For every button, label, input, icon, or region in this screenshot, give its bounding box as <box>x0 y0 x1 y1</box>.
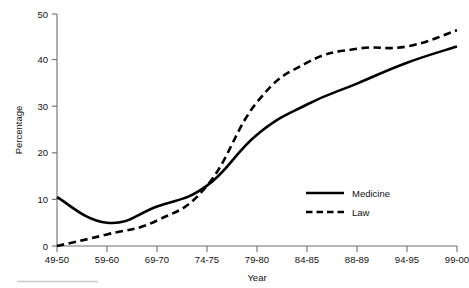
y-tick-label: 40 <box>37 54 48 65</box>
y-tick-label: 50 <box>37 9 48 20</box>
x-tick-label: 99-00 <box>445 254 469 265</box>
chart-container: 0 10 20 30 40 50 Percentage 49-50 59-60 … <box>0 0 469 288</box>
y-tick-label: 0 <box>43 241 48 252</box>
x-tick-label: 84-85 <box>295 254 319 265</box>
y-axis-title: Percentage <box>13 106 24 155</box>
x-tick-label: 59-60 <box>95 254 119 265</box>
x-tick-label: 69-70 <box>145 254 169 265</box>
x-tick-label: 88-89 <box>345 254 369 265</box>
x-tick-label: 74-75 <box>195 254 219 265</box>
legend-label-law: Law <box>352 207 370 218</box>
chart-background <box>0 0 469 288</box>
x-axis-title: Year <box>247 272 266 283</box>
y-tick-label: 20 <box>37 147 48 158</box>
x-axis-tick-labels: 49-50 59-60 69-70 74-75 79-80 84-85 88-8… <box>45 254 469 265</box>
x-tick-label: 49-50 <box>45 254 69 265</box>
x-tick-label: 79-80 <box>245 254 269 265</box>
line-chart: 0 10 20 30 40 50 Percentage 49-50 59-60 … <box>0 0 469 288</box>
legend-label-medicine: Medicine <box>352 188 390 199</box>
x-tick-label: 94-95 <box>395 254 419 265</box>
y-tick-label: 30 <box>37 101 48 112</box>
y-tick-label: 10 <box>37 194 48 205</box>
